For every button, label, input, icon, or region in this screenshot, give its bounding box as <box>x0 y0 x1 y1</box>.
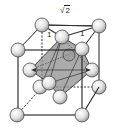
front-face-atom <box>42 76 56 90</box>
top-face-atom <box>55 30 69 44</box>
bottom-face-atom <box>53 90 67 104</box>
fcc-unit-cell-diagram: √2 1 1 <box>0 0 115 135</box>
unit-cell-drawing <box>0 0 115 135</box>
sqrt2-label: √2 <box>60 7 70 15</box>
edge-length-label-right: 1 <box>80 30 84 38</box>
interstitial-atom <box>63 49 75 61</box>
edge-length-label-left: 1 <box>47 31 51 39</box>
